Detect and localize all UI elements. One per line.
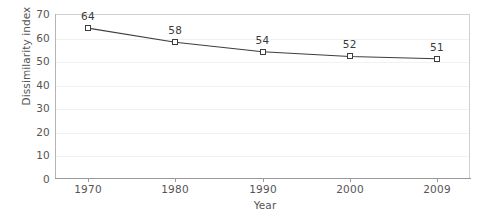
data-point-marker — [260, 49, 266, 55]
x-axis-title: Year — [0, 199, 484, 211]
x-tick-label-2000: 2000 — [336, 183, 364, 195]
y-axis-line — [55, 14, 56, 179]
data-point-marker — [85, 25, 91, 31]
x-tick-label-1990: 1990 — [249, 183, 277, 195]
y-axis-title: Dissimilarity index — [20, 0, 32, 136]
gridline — [56, 109, 469, 110]
x-tick-mark — [175, 178, 176, 182]
gridline — [56, 156, 469, 157]
x-tick-mark — [437, 178, 438, 182]
x-tick-label-1980: 1980 — [161, 183, 189, 195]
data-point-label: 64 — [81, 10, 95, 22]
x-tick-label-1970: 1970 — [74, 183, 102, 195]
gridline — [56, 133, 469, 134]
data-point-label: 58 — [168, 24, 182, 36]
x-tick-label-2009: 2009 — [423, 183, 451, 195]
chart-screenshot: 70 60 50 40 30 20 10 0 Dissimilarity ind… — [0, 0, 484, 220]
data-point-marker — [347, 53, 353, 59]
x-tick-mark — [88, 178, 89, 182]
y-tick-label: 10 — [22, 149, 50, 161]
data-point-label: 52 — [343, 38, 357, 50]
gridline — [56, 62, 469, 63]
data-point-label: 51 — [430, 41, 444, 53]
x-axis-title-text: Year — [254, 199, 277, 211]
data-point-marker — [172, 39, 178, 45]
x-tick-mark — [263, 178, 264, 182]
data-point-marker — [434, 56, 440, 62]
x-tick-mark — [350, 178, 351, 182]
data-point-label: 54 — [256, 34, 270, 46]
y-tick-label: 0 — [22, 173, 50, 185]
gridline — [56, 86, 469, 87]
